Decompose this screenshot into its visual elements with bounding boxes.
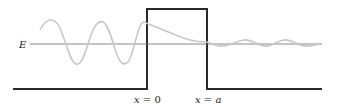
decaying-wave [146, 23, 207, 42]
transmitted-wave [207, 40, 322, 46]
boundary-label-x0: x = 0 [134, 94, 161, 105]
potential-barrier [13, 9, 322, 89]
energy-label: E [18, 39, 27, 50]
incident-wave [40, 20, 146, 64]
boundary-label-xa: x = a [195, 94, 221, 105]
tunneling-diagram: E x = 0 x = a [0, 0, 339, 108]
